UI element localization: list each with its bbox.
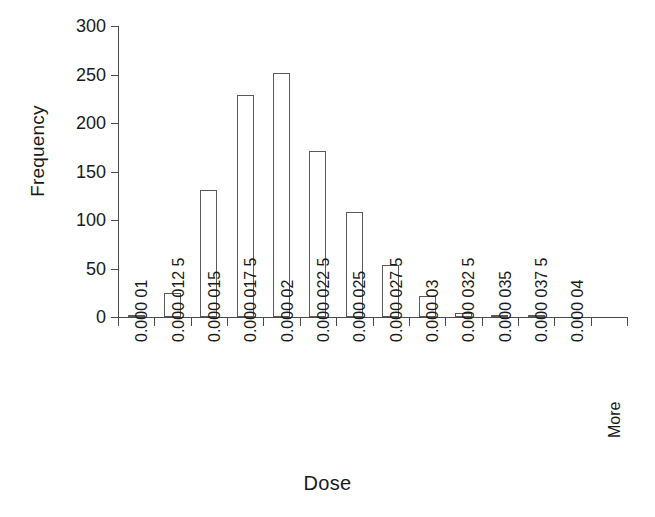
- x-axis-tick-label: 0.000 03: [425, 280, 441, 342]
- x-axis-tick-label: 0.000 012 5: [171, 257, 187, 342]
- x-axis-tick: [591, 318, 592, 326]
- x-axis-tick: [627, 318, 628, 326]
- plot-area: [118, 26, 627, 317]
- y-axis-tick-label: 300: [46, 17, 106, 35]
- x-axis-tick: [300, 318, 301, 326]
- histogram-chart: Frequency 050100150200250300 0.000 010.0…: [0, 0, 655, 517]
- y-axis-tick: [111, 26, 118, 27]
- x-axis-tick: [554, 318, 555, 326]
- y-axis-tick-label-text: 0: [50, 308, 106, 326]
- x-axis-tick: [118, 318, 119, 326]
- x-axis-tick: [518, 318, 519, 326]
- x-axis-tick: [445, 318, 446, 326]
- x-axis-tick-label: 0.000 01: [134, 280, 150, 342]
- x-axis-tick-label: 0.000 022 5: [316, 257, 332, 342]
- y-axis-tick-label: 100: [46, 211, 106, 229]
- y-axis-tick-label: 0: [46, 308, 106, 326]
- x-axis-tick-label: 0.000 032 5: [461, 257, 477, 342]
- y-axis-tick: [111, 269, 118, 270]
- y-axis-tick-label: 250: [46, 66, 106, 84]
- x-axis-tick: [409, 318, 410, 326]
- x-axis-tick-label: 0.000 035: [498, 271, 514, 342]
- y-axis-tick-label-text: 200: [50, 114, 106, 132]
- x-axis-tick: [336, 318, 337, 326]
- y-axis-tick-label-text: 300: [50, 17, 106, 35]
- y-axis-tick-label-text: 150: [50, 163, 106, 181]
- y-axis-tick-label: 200: [46, 114, 106, 132]
- y-axis-tick-label-text: 100: [50, 211, 106, 229]
- x-axis-title: Dose: [0, 472, 655, 495]
- x-axis-tick-label: 0.000 02: [280, 280, 296, 342]
- x-axis-tick-label: 0.000 025: [352, 271, 368, 342]
- x-axis-tick: [154, 318, 155, 326]
- y-axis-tick-label-text: 50: [50, 260, 106, 278]
- x-axis-tick: [373, 318, 374, 326]
- y-axis-tick-label: 50: [46, 260, 106, 278]
- x-axis-tick: [482, 318, 483, 326]
- y-axis-tick: [111, 172, 118, 173]
- y-axis-tick: [111, 75, 118, 76]
- x-axis-tick: [191, 318, 192, 326]
- x-axis-tick-label: 0.000 015: [207, 271, 223, 342]
- y-axis-tick-label-text: 250: [50, 66, 106, 84]
- y-axis-tick-label: 150: [46, 163, 106, 181]
- x-axis-tick-label: 0.000 037 5: [534, 257, 550, 342]
- y-axis-tick: [111, 317, 118, 318]
- x-axis-tick-label: More: [607, 402, 623, 438]
- x-axis-tick: [263, 318, 264, 326]
- x-axis-tick-label: 0.000 04: [570, 280, 586, 342]
- x-axis-tick-label: 0.000 027 5: [389, 257, 405, 342]
- y-axis-tick: [111, 123, 118, 124]
- x-axis-tick-label: 0.000 017 5: [243, 257, 259, 342]
- x-axis-tick: [227, 318, 228, 326]
- y-axis-tick: [111, 220, 118, 221]
